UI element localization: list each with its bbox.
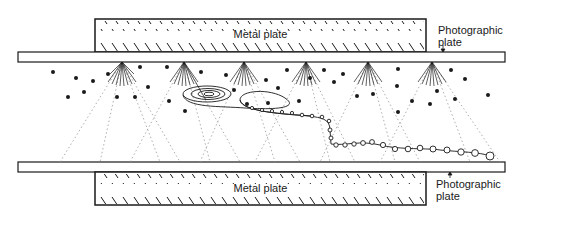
spray-4: [292, 62, 320, 86]
spray-3: [230, 62, 258, 86]
top-photo-label-line2: plate: [438, 36, 503, 48]
spray-5: [354, 62, 382, 86]
spray-1: [108, 62, 136, 86]
bottom-photo-label-line1: Photographic: [436, 178, 501, 190]
top-photographic-plate-label: Photographic plate: [438, 24, 503, 48]
spray-6: [418, 62, 446, 86]
top-metal-plate-label: Metal plate: [95, 28, 426, 40]
bottom-metal-plate-label: Metal plate: [95, 182, 426, 194]
label-arrows: [441, 45, 452, 178]
spray-2: [170, 62, 206, 100]
droplets: [51, 65, 490, 114]
beaded-track: [240, 100, 494, 160]
top-photo-label-line1: Photographic: [438, 24, 503, 36]
bottom-photographic-plate: [18, 162, 505, 172]
bottom-photo-label-line2: plate: [436, 190, 501, 202]
top-photographic-plate: [18, 52, 505, 62]
bottom-photographic-plate-label: Photographic plate: [436, 178, 501, 202]
